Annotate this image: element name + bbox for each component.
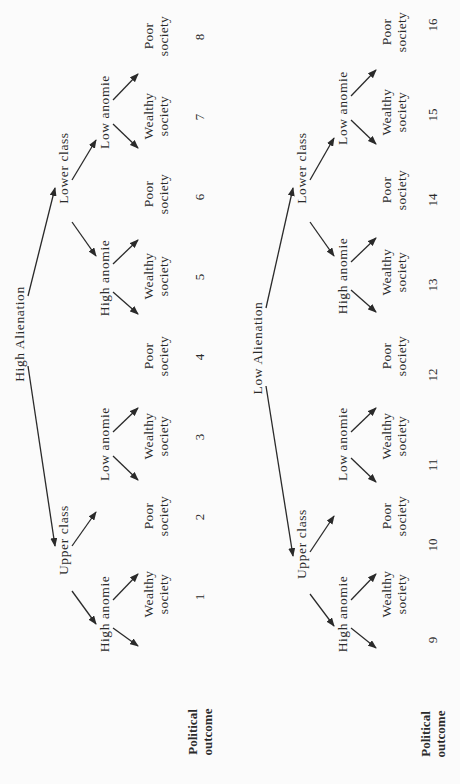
edge-lower-high <box>310 222 334 256</box>
edge-leaf-1 <box>113 628 138 646</box>
node-upper-class: Upper class <box>57 505 71 575</box>
outcome-number: 1 <box>192 594 208 601</box>
leaf-wealthy-society: Wealthysociety <box>141 413 171 460</box>
edge-leaf-5 <box>113 292 138 314</box>
edge-leaf-6 <box>113 240 138 264</box>
edge-root-upper <box>266 386 293 556</box>
leaf-wealthy-society: Wealthysociety <box>141 93 171 140</box>
leaf-poor-society: Poorsociety <box>379 336 409 376</box>
tree-high-alienation: High Alienation Upper class Lower class … <box>0 0 230 784</box>
political-outcome-label: Politicaloutcome <box>418 711 448 758</box>
edge-leaf-11 <box>351 458 376 482</box>
edge-upper-high <box>310 594 334 626</box>
outcome-number: 14 <box>425 194 441 207</box>
edge-leaf-9 <box>351 628 376 648</box>
leaf-poor-society: Poorsociety <box>379 12 409 52</box>
node-low-anomie: Low anomie <box>98 407 112 481</box>
node-low-anomie: Low anomie <box>336 71 350 145</box>
leaf-wealthy-society: Wealthysociety <box>141 571 171 618</box>
node-upper-class: Upper class <box>295 509 309 579</box>
edge-leaf-3 <box>113 456 138 480</box>
leaf-wealthy-society: Wealthysociety <box>379 413 409 460</box>
edge-root-lower <box>28 188 55 296</box>
edge-leaf-13 <box>351 290 376 312</box>
node-high-anomie: High anomie <box>98 576 112 653</box>
edge-upper-high <box>72 591 96 624</box>
outcome-number: 7 <box>192 114 208 121</box>
edge-leaf-4 <box>113 408 138 432</box>
outcome-number: 16 <box>425 19 441 32</box>
leaf-poor-society: Poorsociety <box>141 336 171 376</box>
edge-root-upper <box>28 366 55 546</box>
node-low-anomie: Low anomie <box>336 407 350 481</box>
edge-leaf-12 <box>351 408 376 432</box>
outcome-number: 13 <box>425 279 441 292</box>
node-lower-class: Lower class <box>57 132 71 203</box>
tree-low-alienation: Low Alienation Upper class Lower class H… <box>238 0 460 784</box>
outcome-number: 8 <box>192 34 208 41</box>
node-lower-class: Lower class <box>295 132 309 203</box>
root-node-low-alienation: Low Alienation <box>251 302 265 395</box>
outcome-number: 3 <box>192 434 208 441</box>
leaf-poor-society: Poorsociety <box>141 496 171 536</box>
outcome-number: 9 <box>425 637 441 644</box>
outcome-number: 2 <box>192 514 208 521</box>
outcome-number: 15 <box>425 109 441 122</box>
edge-leaf-15 <box>351 120 376 144</box>
node-high-anomie: High anomie <box>98 240 112 317</box>
outcome-number: 12 <box>425 369 441 382</box>
leaf-poor-society: Poorsociety <box>141 16 171 56</box>
node-high-anomie: High anomie <box>336 576 350 653</box>
edge-lower-low <box>72 140 96 180</box>
node-high-anomie: High anomie <box>336 238 350 315</box>
outcome-number: 6 <box>192 194 208 201</box>
edge-root-lower <box>266 188 293 308</box>
political-outcome-label: Politicaloutcome <box>185 709 215 756</box>
outcome-number: 5 <box>192 274 208 281</box>
edge-leaf-10 <box>351 574 376 600</box>
leaf-wealthy-society: Wealthysociety <box>379 571 409 618</box>
leaf-wealthy-society: Wealthysociety <box>379 89 409 136</box>
node-low-anomie: Low anomie <box>98 75 112 149</box>
outcome-number: 4 <box>192 354 208 361</box>
edge-leaf-14 <box>351 238 376 262</box>
edge-leaf-2 <box>113 574 138 600</box>
leaf-wealthy-society: Wealthysociety <box>379 249 409 296</box>
leaf-poor-society: Poorsociety <box>141 174 171 214</box>
edge-leaf-8 <box>113 74 138 100</box>
edge-lower-low <box>310 138 334 180</box>
leaf-wealthy-society: Wealthysociety <box>141 253 171 300</box>
outcome-number: 10 <box>425 539 441 552</box>
root-node-high-alienation: High Alienation <box>13 286 27 382</box>
edge-upper-low <box>72 512 96 546</box>
outcome-number: 11 <box>425 459 441 472</box>
edge-leaf-16 <box>351 70 376 96</box>
edge-lower-high <box>72 222 96 256</box>
diagram-canvas: High Alienation Upper class Lower class … <box>0 0 460 784</box>
edge-leaf-7 <box>113 124 138 148</box>
leaf-poor-society: Poorsociety <box>379 170 409 210</box>
leaf-poor-society: Poorsociety <box>379 496 409 536</box>
edge-upper-low <box>310 516 334 552</box>
